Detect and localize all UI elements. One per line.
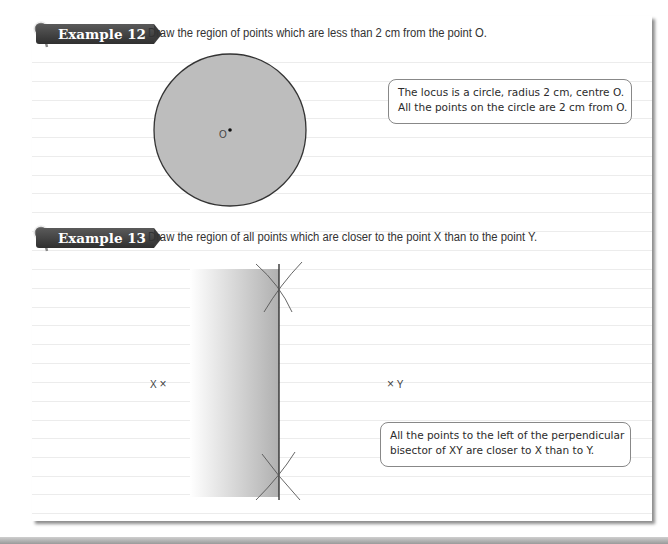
example-13-badge: Example 13 <box>36 228 162 248</box>
callout-line: All the points to the left of the perpen… <box>390 428 621 443</box>
cross-icon: × <box>387 377 394 391</box>
callout-line: All the points on the circle are 2 cm fr… <box>398 100 622 115</box>
bottom-edge <box>0 537 668 544</box>
example-12-callout: The locus is a circle, radius 2 cm, cent… <box>388 79 632 124</box>
example-13-label: Example 13 <box>36 228 154 248</box>
half-plane-region <box>190 262 302 500</box>
cross-icon: × <box>159 377 166 391</box>
point-y: × Y <box>387 377 403 391</box>
point-x-label: X <box>150 379 157 390</box>
circle-region <box>154 54 306 206</box>
example-13-task: Draw the region of all points which are … <box>148 230 537 244</box>
example-13-callout: All the points to the left of the perpen… <box>380 422 631 467</box>
point-x: X × <box>150 377 166 391</box>
point-o-label: O <box>219 129 227 140</box>
point-y-label: Y <box>397 379 404 390</box>
callout-line: The locus is a circle, radius 2 cm, cent… <box>398 85 622 100</box>
callout-line: bisector of XY are closer to X than to Y… <box>390 443 621 458</box>
